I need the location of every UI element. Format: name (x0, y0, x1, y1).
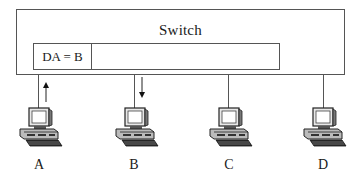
switch-box: Switch DA = B (16, 9, 345, 75)
arrow-up-icon (42, 82, 50, 102)
switch-title: Switch (17, 22, 344, 39)
host-c-computer-icon (204, 105, 254, 151)
host-a-label: A (29, 157, 49, 173)
host-d-computer-icon (298, 105, 348, 151)
host-c-label: C (219, 157, 239, 173)
host-b-computer-icon (110, 105, 160, 151)
host-a-computer-icon (14, 105, 64, 151)
host-b-label: B (124, 157, 144, 173)
arrow-down-icon (138, 77, 146, 99)
destination-address-field: DA = B (34, 44, 92, 69)
host-d-label: D (313, 157, 333, 173)
frame-payload-field (92, 44, 279, 69)
frame: DA = B (33, 43, 280, 70)
